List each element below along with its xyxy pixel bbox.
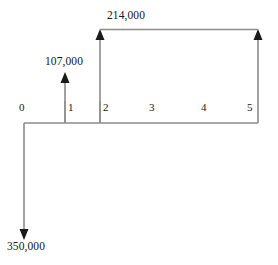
cash-flow-diagram: 107,000 214,000 350,000 0 1 2 3 4 5 [0, 0, 278, 265]
inflow-amount-label-period-2-to-5: 214,000 [107, 10, 145, 22]
period-label-2: 2 [103, 102, 109, 113]
outflow-amount-label-period-0: 350,000 [7, 241, 45, 253]
inflow-arrowhead-period-5 [254, 29, 263, 40]
period-label-1: 1 [68, 102, 74, 113]
inflow-amount-label-period-1: 107,000 [45, 56, 83, 68]
outflow-arrowhead-period-0 [20, 229, 29, 240]
cash-flow-canvas [0, 0, 278, 265]
period-label-3: 3 [149, 102, 155, 113]
period-label-4: 4 [201, 102, 207, 113]
period-label-5: 5 [247, 102, 253, 113]
inflow-arrowhead-period-2 [96, 29, 105, 40]
inflow-arrowhead-period-1 [61, 72, 70, 83]
period-label-0: 0 [19, 102, 25, 113]
